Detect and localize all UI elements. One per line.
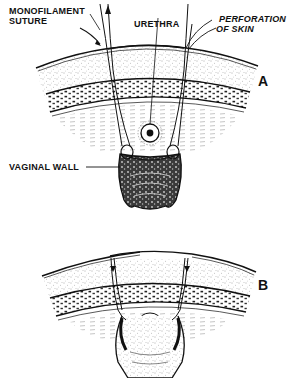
label-perforation: PERFORATION <box>219 14 286 24</box>
label-urethra: URETHRA <box>134 19 180 29</box>
label-suture: SUTURE <box>9 16 47 26</box>
panel-letter-b: B <box>258 277 268 293</box>
panel-letter-a: A <box>258 73 268 89</box>
surgical-illustration: MONOFILAMENT SUTURE URETHRA PERFORATION … <box>0 0 293 378</box>
vagina <box>119 154 182 209</box>
suture-direction-arrow <box>105 5 111 14</box>
vagina-b <box>116 316 185 378</box>
monofilament-leader-line <box>90 14 100 30</box>
label-vaginal-wall: VAGINAL WALL <box>9 162 79 172</box>
panel-b: B <box>42 251 268 378</box>
label-of-skin: OF SKIN <box>216 24 254 34</box>
panel-a: MONOFILAMENT SUTURE URETHRA PERFORATION … <box>9 4 286 209</box>
label-monofilament: MONOFILAMENT <box>9 6 85 16</box>
